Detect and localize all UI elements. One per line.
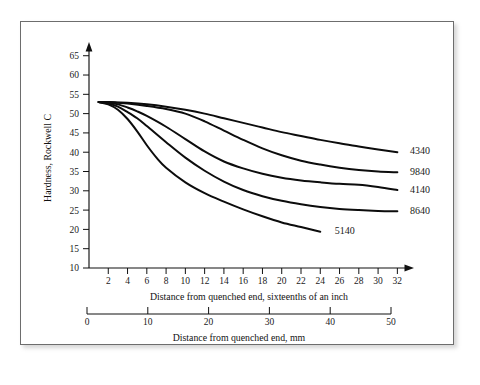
x-tick-label: 12 [200, 276, 210, 286]
y-tick-label: 35 [70, 167, 80, 177]
x-tick-label: 14 [219, 276, 229, 286]
y-tick-label: 10 [70, 263, 80, 273]
x-tick-label: 22 [296, 276, 306, 286]
jominy-hardenability-chart: 101520253035404550556065 246810121416182… [21, 22, 453, 344]
y-tick-label: 55 [70, 90, 80, 100]
x-tick-label: 4 [125, 276, 130, 286]
mm-axis-title: Distance from quenched end, mm [173, 332, 306, 343]
x-axis-arrowhead [405, 265, 415, 272]
mm-tick-label: 20 [204, 317, 214, 327]
x-tick-label: 16 [238, 276, 248, 286]
y-tick-label: 30 [70, 186, 80, 196]
x-tick-label-group: 2468101214161820222426283032 [106, 276, 402, 286]
x-tick-group [108, 268, 397, 274]
y-axis-arrowhead [86, 42, 93, 52]
y-axis-title: Hardness, Rockwell C [42, 114, 53, 202]
mm-scale: 01020304050 Distance from quenched end, … [85, 307, 396, 343]
y-tick-label: 50 [70, 109, 80, 119]
y-tick-label: 20 [70, 225, 80, 235]
series-label-4340: 4340 [410, 145, 430, 156]
mm-tick-label: 40 [325, 317, 335, 327]
x-tick-label: 20 [277, 276, 287, 286]
x-tick-label: 18 [258, 276, 268, 286]
series-label-8640: 8640 [410, 205, 430, 216]
y-axis: 101520253035404550556065 [70, 42, 93, 273]
y-tick-group [83, 56, 89, 268]
y-tick-label: 65 [70, 51, 80, 61]
x-axis: 2468101214161820222426283032 [89, 265, 414, 286]
series-label-9840: 9840 [410, 166, 430, 177]
x-tick-label: 6 [144, 276, 149, 286]
mm-tick-group [87, 307, 391, 314]
y-tick-label: 25 [70, 206, 80, 216]
x-tick-label: 32 [393, 276, 403, 286]
x-tick-label: 8 [164, 276, 169, 286]
mm-tick-label: 30 [265, 317, 275, 327]
y-tick-label: 15 [70, 244, 80, 254]
mm-tick-label: 0 [85, 317, 90, 327]
x-tick-label: 30 [373, 276, 383, 286]
series-label-4140: 4140 [410, 184, 430, 195]
figure-frame: 101520253035404550556065 246810121416182… [20, 21, 454, 345]
series-curves [99, 102, 398, 232]
series-labels: 43409840414086405140 [335, 145, 430, 236]
mm-tick-label-group: 01020304050 [85, 317, 396, 327]
x-tick-label: 24 [316, 276, 326, 286]
x-axis-title: Distance from quenched end, sixteenths o… [150, 291, 348, 302]
y-tick-label: 60 [70, 70, 80, 80]
y-tick-label: 40 [70, 148, 80, 158]
series-curve-9840 [99, 102, 398, 172]
x-tick-label: 26 [335, 276, 345, 286]
series-curve-5140 [99, 102, 321, 232]
x-tick-label: 28 [354, 276, 364, 286]
series-curve-8640 [99, 102, 398, 211]
mm-tick-label: 10 [143, 317, 153, 327]
series-label-5140: 5140 [335, 225, 355, 236]
x-tick-label: 2 [106, 276, 111, 286]
series-curve-4340 [99, 102, 398, 152]
y-tick-label-group: 101520253035404550556065 [70, 51, 80, 273]
x-tick-label: 10 [181, 276, 191, 286]
mm-tick-label: 50 [386, 317, 396, 327]
y-tick-label: 45 [70, 128, 80, 138]
